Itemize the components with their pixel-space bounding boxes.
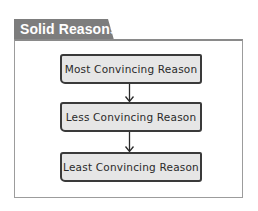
node-label: Most Convincing Reason	[65, 63, 198, 75]
node-most-convincing: Most Convincing Reason	[60, 54, 202, 84]
arrow-down-icon	[124, 132, 135, 153]
node-label: Least Convincing Reason	[63, 161, 199, 173]
title-tab: Solid Reasons	[14, 19, 114, 40]
node-least-convincing: Least Convincing Reason	[60, 152, 202, 182]
node-less-convincing: Less Convincing Reason	[60, 102, 202, 132]
arrow-down-icon	[124, 84, 135, 103]
diagram-title: Solid Reasons	[20, 21, 118, 37]
node-label: Less Convincing Reason	[66, 111, 197, 123]
